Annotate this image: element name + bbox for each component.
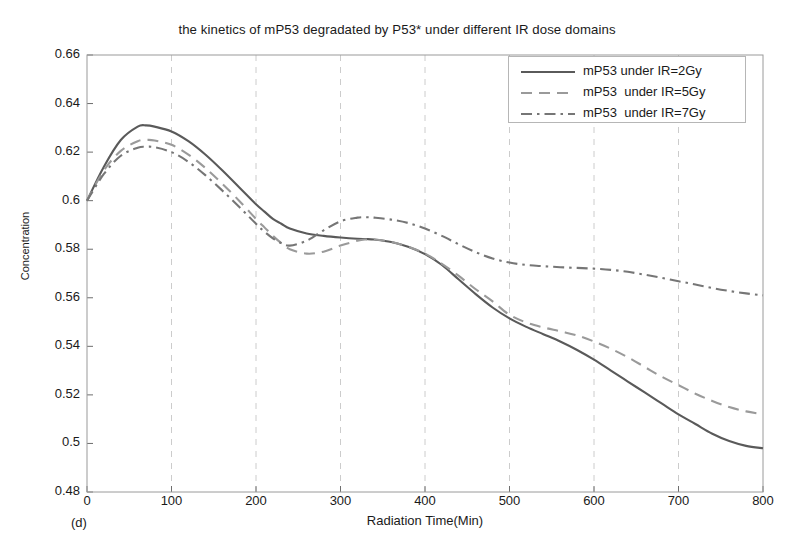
figure-container: the kinetics of mP53 degradated by P53* … [0, 0, 794, 553]
y-tick-label-0-66: 0.66 [18, 46, 80, 61]
y-tick-label-0-62: 0.62 [18, 143, 80, 158]
legend-entry-7Gy: mP53 under IR=7Gy [509, 103, 747, 125]
series-line-5Gy [87, 140, 763, 414]
legend-label-7Gy: mP53 under IR=7Gy [583, 105, 705, 120]
y-tick-label-0-58: 0.58 [18, 240, 80, 255]
legend-line-sample-7Gy [519, 103, 577, 125]
y-tick-label-0-48: 0.48 [18, 483, 80, 498]
x-tick-label-600: 600 [564, 493, 624, 508]
y-tick-label-0-54: 0.54 [18, 337, 80, 352]
y-tick-label-0-64: 0.64 [18, 95, 80, 110]
legend-label-5Gy: mP53 under IR=5Gy [583, 84, 705, 99]
x-tick-label-400: 400 [395, 493, 455, 508]
x-tick-label-500: 500 [480, 493, 540, 508]
chart-legend: mP53 under IR=2GymP53 under IR=5GymP53 u… [508, 56, 746, 123]
legend-entry-2Gy: mP53 under IR=2Gy [509, 61, 747, 83]
x-tick-label-700: 700 [649, 493, 709, 508]
legend-entry-5Gy: mP53 under IR=5Gy [509, 82, 747, 104]
y-tick-label-0-56: 0.56 [18, 289, 80, 304]
x-tick-label-100: 100 [142, 493, 202, 508]
y-tick-label-0-52: 0.52 [18, 386, 80, 401]
legend-line-sample-2Gy [519, 61, 577, 83]
x-axis-label: Radiation Time(Min) [87, 513, 763, 528]
x-tick-label-800: 800 [733, 493, 793, 508]
x-tick-label-300: 300 [311, 493, 371, 508]
legend-label-2Gy: mP53 under IR=2Gy [583, 63, 702, 78]
x-tick-label-200: 200 [226, 493, 286, 508]
y-tick-label-0-6: 0.6 [18, 192, 80, 207]
subfigure-label: (d) [71, 515, 87, 530]
y-tick-label-0-5: 0.5 [18, 434, 80, 449]
legend-line-sample-5Gy [519, 82, 577, 104]
